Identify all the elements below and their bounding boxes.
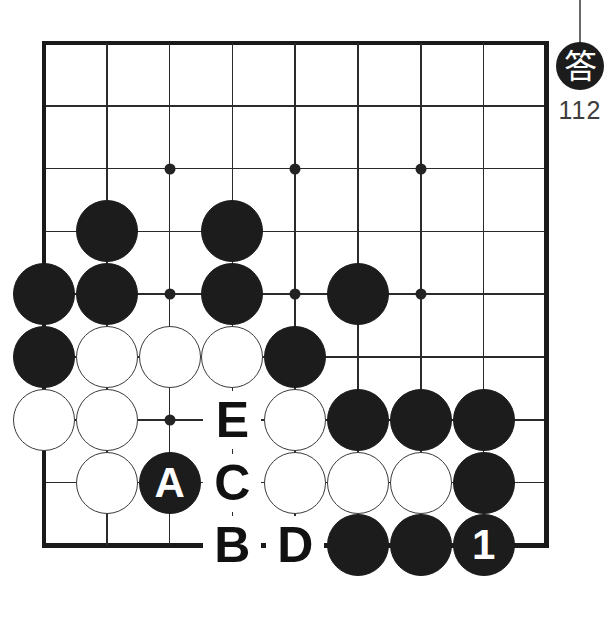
stone-white[interactable] <box>13 389 75 451</box>
star-point <box>164 414 175 425</box>
stone-white[interactable] <box>139 326 201 388</box>
stone-black[interactable] <box>201 263 263 325</box>
stone-black[interactable] <box>13 326 75 388</box>
answer-badge-icon: 答 <box>556 42 604 90</box>
star-point <box>290 289 301 300</box>
stone-white[interactable] <box>264 389 326 451</box>
stone-black[interactable] <box>327 514 389 576</box>
stone-black[interactable] <box>76 263 138 325</box>
stone-white[interactable] <box>264 452 326 514</box>
stone-black[interactable] <box>201 200 263 262</box>
stone-white[interactable] <box>76 389 138 451</box>
go-board: ECBD A1 <box>0 0 608 639</box>
answer-number-label: 112 <box>552 96 608 125</box>
board-marker-c[interactable]: C <box>203 454 261 512</box>
board-marker-d[interactable]: D <box>266 516 324 574</box>
board-marker-b[interactable]: B <box>203 516 261 574</box>
stone-white[interactable] <box>201 326 263 388</box>
stone-white[interactable] <box>76 452 138 514</box>
stone-label: A <box>140 453 200 513</box>
stone-black-labeled-1[interactable]: 1 <box>453 514 515 576</box>
board-marker-e[interactable]: E <box>203 391 261 449</box>
star-point <box>290 163 301 174</box>
stone-black[interactable] <box>390 389 452 451</box>
star-point <box>415 163 426 174</box>
stone-white[interactable] <box>327 452 389 514</box>
stone-black[interactable] <box>264 326 326 388</box>
grid-line-vertical <box>544 41 549 548</box>
stone-black[interactable] <box>453 452 515 514</box>
stone-black-labeled-a[interactable]: A <box>139 452 201 514</box>
stone-black[interactable] <box>327 389 389 451</box>
stone-black[interactable] <box>453 389 515 451</box>
stone-white[interactable] <box>76 326 138 388</box>
star-point <box>415 289 426 300</box>
answer-badge-stem <box>579 0 581 44</box>
star-point <box>164 289 175 300</box>
stone-black[interactable] <box>13 263 75 325</box>
stone-black[interactable] <box>76 200 138 262</box>
stone-label: 1 <box>454 515 514 575</box>
star-point <box>164 163 175 174</box>
stone-white[interactable] <box>390 452 452 514</box>
stone-black[interactable] <box>390 514 452 576</box>
stone-black[interactable] <box>327 263 389 325</box>
